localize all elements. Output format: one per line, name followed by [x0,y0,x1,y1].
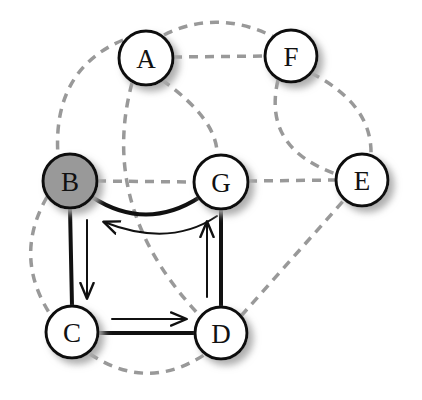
node-label-g: G [211,168,231,198]
node-label-f: F [283,42,298,72]
node-d[interactable]: D [195,307,247,359]
dashed-edge-f-e-right-arc [311,73,371,154]
dashed-edge-a-b-arc [58,40,123,156]
node-label-c: C [63,318,81,348]
direction-arrow-g-to-b [104,216,217,234]
dashed-edge-c-d-arc [90,354,204,373]
graph-canvas: AFBGECD [0,0,422,400]
dashed-edge-a-f-straight [173,56,265,57]
arrow-annotation-layer [87,216,217,319]
solid-edge-layer [70,197,221,333]
node-e[interactable]: E [336,154,388,206]
node-label-a: A [136,44,156,74]
solid-edge-b-g [92,197,200,215]
graph-figure: AFBGECD [0,0,422,400]
node-a[interactable]: A [119,31,173,85]
node-c[interactable]: C [46,306,98,358]
dashed-edge-g-e-straight [248,180,336,181]
node-layer: AFBGECD [43,30,388,359]
dashed-edge-a-f-arc [164,22,276,38]
dashed-edge-f-e-left-arc [275,80,336,174]
dashed-edge-b-g-straight [97,181,194,182]
solid-edge-b-c [70,208,72,306]
node-f[interactable]: F [265,30,317,82]
dashed-edge-d-e-diagonal [241,199,345,316]
node-label-d: D [211,319,231,349]
dashed-edge-a-g-arc [162,80,217,155]
node-label-b: B [61,167,79,197]
node-g[interactable]: G [194,155,248,209]
node-label-e: E [354,166,371,196]
dashed-edge-b-c-arc [31,197,52,317]
node-b[interactable]: B [43,154,97,208]
